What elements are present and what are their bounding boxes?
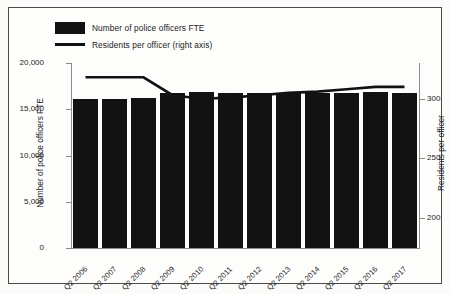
bar-swatch-icon — [55, 22, 85, 34]
legend-label-residents-per-officer: Residents per officer (right axis) — [92, 40, 212, 50]
y-axis-right-line — [419, 63, 420, 248]
y-axis-left-tick-label: 20,000 — [20, 58, 44, 67]
y-axis-right-tick — [420, 158, 425, 159]
chart-legend: Number of police officers FTE Residents … — [55, 19, 385, 53]
line-series — [71, 63, 419, 248]
y-axis-left-title: Number of police officers FTE — [35, 73, 45, 233]
legend-item-police-officers: Number of police officers FTE — [55, 19, 385, 36]
residents-per-officer-line — [86, 77, 405, 98]
chart-frame: Number of police officers FTE Residents … — [8, 7, 442, 284]
x-axis-labels: Q2 2006Q2 2007Q2 2008Q2 2009Q2 2010Q2 20… — [71, 251, 419, 294]
plot-area — [71, 63, 419, 248]
y-axis-left-tick-label: 0 — [40, 243, 44, 252]
legend-item-residents-per-officer: Residents per officer (right axis) — [55, 36, 385, 53]
y-axis-right-tick — [420, 99, 425, 100]
x-axis-label-slot: Q2 2017 — [390, 251, 419, 294]
legend-label-police-officers: Number of police officers FTE — [92, 23, 205, 33]
y-axis-left-tick — [66, 248, 71, 249]
x-axis-tick-label: Q2 2006 — [61, 264, 88, 291]
y-axis-right-tick — [420, 218, 425, 219]
x-axis-line — [71, 248, 420, 249]
line-swatch-icon — [55, 39, 85, 51]
y-axis-right-title: Residents per officer — [436, 73, 446, 233]
chart-figure: Number of police officers FTE Residents … — [0, 0, 451, 294]
